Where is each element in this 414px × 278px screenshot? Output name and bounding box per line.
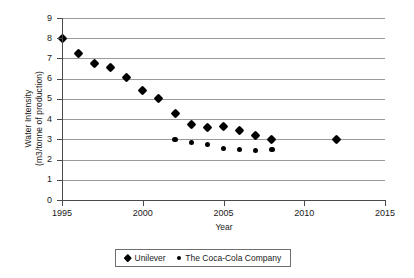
y-axis-line xyxy=(62,18,63,201)
x-axis-tick-label: 2015 xyxy=(365,209,405,218)
y-axis-tick xyxy=(57,160,62,161)
y-axis-tick xyxy=(57,139,62,140)
data-point-circle xyxy=(237,147,242,152)
data-point-diamond xyxy=(122,73,132,83)
y-axis-tick-label: 0 xyxy=(22,196,52,205)
x-axis-tick xyxy=(143,201,144,206)
x-axis-tick-label: 2005 xyxy=(204,209,244,218)
y-axis-tick-label: 1 xyxy=(22,175,52,184)
x-axis-tick xyxy=(304,201,305,206)
y-axis-tick xyxy=(57,58,62,59)
y-axis-tick-label: 5 xyxy=(22,94,52,103)
gridline xyxy=(62,119,385,120)
data-point-diamond xyxy=(219,121,229,131)
data-point-diamond xyxy=(186,119,196,129)
plot-area xyxy=(62,18,385,200)
y-axis-tick-label: 8 xyxy=(22,34,52,43)
data-point-diamond xyxy=(138,86,148,96)
gridline xyxy=(62,18,385,19)
y-axis-tick-label: 6 xyxy=(22,74,52,83)
data-point-diamond xyxy=(170,108,180,118)
data-point-diamond xyxy=(235,125,245,135)
legend-label: Unilever xyxy=(135,253,166,263)
gridline xyxy=(62,160,385,161)
y-axis-tick xyxy=(57,38,62,39)
data-point-diamond xyxy=(154,94,164,104)
gridline xyxy=(62,38,385,39)
y-axis-tick-label: 7 xyxy=(22,54,52,63)
y-axis-tick xyxy=(57,119,62,120)
x-axis-tick-label: 2010 xyxy=(284,209,324,218)
data-point-diamond xyxy=(105,63,115,73)
y-axis-tick xyxy=(57,180,62,181)
data-point-diamond xyxy=(332,134,342,144)
gridline xyxy=(62,180,385,181)
data-point-diamond xyxy=(89,59,99,69)
gridline xyxy=(62,58,385,59)
y-axis-tick xyxy=(57,18,62,19)
data-point-circle xyxy=(221,146,226,151)
legend-marker-diamond-icon xyxy=(124,254,132,262)
data-point-circle xyxy=(205,142,210,147)
legend-marker-circle-icon xyxy=(177,256,182,261)
x-axis-tick xyxy=(62,201,63,206)
legend-entry: Unilever xyxy=(125,253,166,263)
y-axis-tick-label: 3 xyxy=(22,135,52,144)
y-axis-tick-label: 9 xyxy=(22,14,52,23)
data-point-circle xyxy=(269,147,274,152)
data-point-circle xyxy=(253,148,258,153)
gridline xyxy=(62,79,385,80)
gridline xyxy=(62,99,385,100)
y-axis-tick xyxy=(57,99,62,100)
chart-legend: UnileverThe Coca-Cola Company xyxy=(115,249,291,267)
legend-label: The Coca-Cola Company xyxy=(185,253,281,263)
chart-figure: Water Intensity (m3/tonne of production)… xyxy=(0,0,414,278)
data-point-circle xyxy=(172,137,177,142)
data-point-diamond xyxy=(267,134,277,144)
x-axis-tick xyxy=(224,201,225,206)
x-axis-tick-label: 1995 xyxy=(42,209,82,218)
y-axis-tick xyxy=(57,79,62,80)
y-axis-tick-label: 2 xyxy=(22,155,52,164)
x-axis-title: Year xyxy=(62,222,386,232)
legend-entry: The Coca-Cola Company xyxy=(177,253,282,263)
y-axis-tick-label: 4 xyxy=(22,115,52,124)
data-point-diamond xyxy=(202,122,212,132)
data-point-diamond xyxy=(73,48,83,58)
x-axis-tick-label: 2000 xyxy=(123,209,163,218)
data-point-circle xyxy=(189,140,194,145)
x-axis-tick xyxy=(385,201,386,206)
